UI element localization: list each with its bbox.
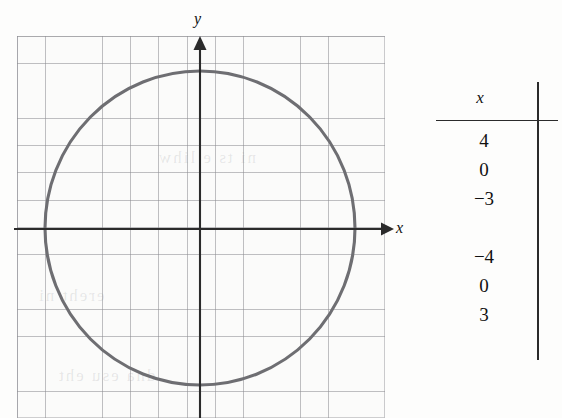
value-table: x 4 0 −3 −4 0 3 xyxy=(430,70,560,370)
table-cell: −3 xyxy=(444,184,524,213)
table-cell: 3 xyxy=(444,300,524,329)
table-cell: 0 xyxy=(444,271,524,300)
y-axis-arrowhead xyxy=(194,36,207,50)
x-axis-arrowhead xyxy=(381,223,394,236)
table-column-header-x: x xyxy=(466,88,494,108)
table-column-divider xyxy=(537,82,539,360)
y-axis-label: y xyxy=(194,10,201,28)
table-cell: 0 xyxy=(444,155,524,184)
table-cell-spacer xyxy=(444,213,524,242)
table-cell: −4 xyxy=(444,242,524,271)
graph-figure: ni ts e lihw ereht ni dna esu eht y x xyxy=(0,0,400,418)
table-value-column: 4 0 −3 −4 0 3 xyxy=(444,126,524,329)
table-header-rule xyxy=(436,120,558,121)
x-axis-label: x xyxy=(396,219,403,237)
table-cell: 4 xyxy=(444,126,524,155)
axes xyxy=(0,0,400,418)
